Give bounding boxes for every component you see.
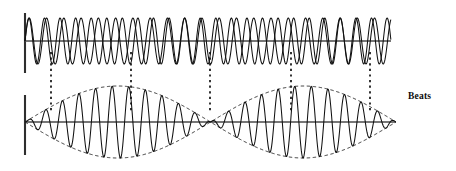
beats-diagram: Beats (0, 0, 456, 171)
beats-label: Beats (408, 90, 431, 102)
beats-wave-plot (0, 0, 456, 171)
beat-node-connectors (51, 52, 370, 113)
component-waves-panel (25, 13, 391, 73)
